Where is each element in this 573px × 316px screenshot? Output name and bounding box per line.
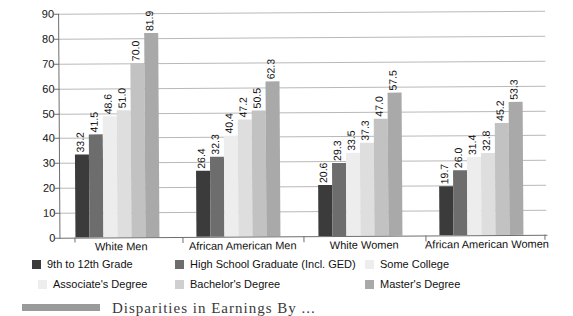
legend-swatch: [32, 260, 41, 269]
bar-value-label: 32.8: [481, 131, 492, 152]
plot-area: 33.241.548.651.070.081.926.432.340.447.2…: [59, 11, 546, 238]
bar-group: 26.432.340.447.250.562.3: [195, 12, 280, 237]
bar-value-label: 29.3: [332, 141, 343, 162]
bar-value-label: 37.3: [359, 120, 370, 141]
x-axis-separator: [182, 237, 183, 243]
bar-value-label: 62.3: [266, 59, 277, 80]
bar-value-label: 53.3: [509, 80, 520, 101]
bar: [102, 116, 117, 237]
y-axis-tick-label: 60: [29, 83, 55, 94]
bar: [89, 134, 104, 237]
bar-value-label: 57.5: [387, 70, 398, 91]
bar: [373, 119, 388, 236]
bar: [252, 111, 267, 237]
bar-value-label: 40.4: [224, 114, 235, 135]
bar: [75, 155, 90, 238]
bar: [116, 110, 131, 237]
bar-value-label: 26.0: [453, 148, 464, 169]
y-axis-tick-label: 50: [29, 108, 55, 119]
x-axis-category-label: White Men: [60, 240, 182, 253]
chart-legend: 9th to 12th GradeHigh School Graduate (I…: [0, 256, 573, 298]
bar-value-label: 19.7: [439, 164, 450, 185]
bar-group: 33.241.548.651.070.081.9: [74, 13, 159, 238]
y-axis-tick-label: 30: [29, 158, 55, 169]
bar-value-label: 47.0: [373, 96, 384, 117]
x-axis-category-label: African American Women: [425, 238, 547, 251]
bar-value-label: 81.9: [144, 11, 155, 32]
bar-value-label: 50.5: [252, 88, 263, 109]
legend-label: 9th to 12th Grade: [47, 258, 133, 270]
chart-page: 0102030405060708090 33.241.548.651.070.0…: [0, 0, 573, 316]
y-axis: 0102030405060708090: [0, 0, 56, 252]
y-axis-tick-label: 80: [28, 34, 54, 45]
legend-item: Bachelor's Degree: [175, 278, 280, 290]
y-axis-tick-label: 10: [29, 208, 55, 219]
bar-value-label: 20.6: [318, 162, 329, 183]
x-axis-separator: [303, 236, 304, 242]
legend-swatch: [175, 260, 184, 269]
bar: [453, 170, 467, 235]
legend-item: Associate's Degree: [38, 278, 147, 290]
bar: [332, 163, 346, 236]
y-axis-tick-label: 90: [28, 9, 54, 20]
legend-item: Master's Degree: [365, 278, 460, 290]
bar-group: 20.629.333.537.347.057.5: [317, 12, 402, 237]
bar: [238, 119, 253, 237]
caption-rule: [22, 304, 100, 311]
bar-group: 19.726.031.432.845.253.3: [438, 11, 523, 236]
bar: [387, 92, 402, 235]
bar: [467, 157, 481, 235]
bar-value-label: 41.5: [88, 112, 99, 133]
caption-text: Disparities in Earnings By ...: [112, 300, 316, 316]
figure-caption: Disparities in Earnings By ...: [0, 300, 573, 316]
y-axis-tick-label: 0: [29, 233, 55, 244]
x-axis-end-tick: [74, 238, 75, 243]
bar-chart: 0102030405060708090 33.241.548.651.070.0…: [0, 0, 573, 252]
y-axis-tick-label: 20: [29, 183, 55, 194]
legend-item: High School Graduate (Incl. GED): [175, 258, 356, 270]
bar: [224, 136, 239, 237]
y-axis-tick-label: 70: [28, 58, 54, 69]
bar-value-label: 33.5: [346, 130, 357, 151]
bar: [346, 152, 361, 235]
bar: [495, 122, 510, 235]
legend-swatch: [38, 280, 47, 289]
legend-label: Bachelor's Degree: [190, 278, 280, 290]
legend-label: Associate's Degree: [53, 278, 147, 290]
bar: [266, 81, 281, 236]
bar-value-label: 51.0: [116, 88, 127, 109]
bar-value-label: 47.2: [238, 97, 249, 118]
legend-item: Some College: [365, 258, 449, 270]
bar-value-label: 31.4: [467, 135, 478, 156]
bar-value-label: 70.0: [130, 40, 141, 61]
legend-label: High School Graduate (Incl. GED): [190, 258, 356, 270]
bar-value-label: 32.3: [210, 134, 221, 155]
bar: [509, 102, 524, 235]
bar-value-label: 48.6: [102, 94, 113, 115]
legend-label: Master's Degree: [380, 278, 460, 290]
x-axis-category-label: African American Men: [182, 239, 304, 252]
legend-swatch: [175, 280, 184, 289]
legend-item: 9th to 12th Grade: [32, 258, 133, 270]
bar-value-label: 26.4: [196, 149, 207, 170]
bar-value-label: 33.2: [75, 132, 86, 153]
bar: [439, 186, 453, 235]
bar: [144, 33, 159, 237]
bar: [318, 185, 332, 236]
x-axis-category-label: White Women: [303, 238, 425, 251]
bar: [130, 63, 145, 237]
legend-swatch: [365, 260, 374, 269]
y-axis-tick-label: 40: [29, 133, 55, 144]
bar: [196, 171, 210, 237]
legend-swatch: [365, 280, 374, 289]
x-axis-separator: [425, 235, 426, 241]
legend-label: Some College: [380, 258, 449, 270]
bar: [210, 156, 224, 236]
bar-value-label: 45.2: [495, 100, 506, 121]
bar: [360, 143, 375, 236]
bar: [481, 153, 495, 235]
x-axis-end-tick: [544, 235, 545, 240]
